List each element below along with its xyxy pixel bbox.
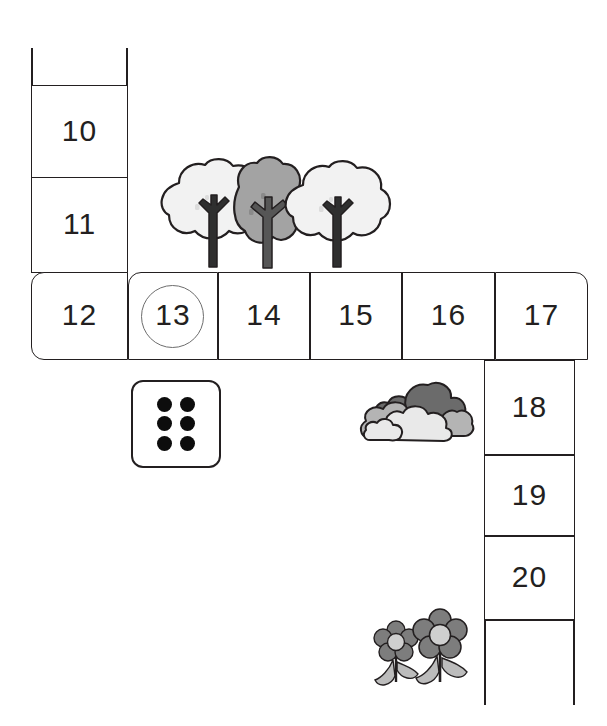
track-cell-label: 11 xyxy=(63,209,96,239)
track-cell-label: 17 xyxy=(524,300,559,330)
track-cell-label: 20 xyxy=(512,562,547,592)
track-cell-16[interactable]: 16 xyxy=(402,272,495,360)
tree-group xyxy=(135,155,380,275)
die-pip xyxy=(180,436,195,451)
bush-cluster xyxy=(358,378,480,448)
track-cell-10[interactable]: 10 xyxy=(31,85,128,178)
track-cell-label: 19 xyxy=(512,480,547,510)
track-edge-top-left xyxy=(31,48,33,86)
track-edge-bottom-divider xyxy=(484,619,575,621)
track-cell-15[interactable]: 15 xyxy=(310,272,402,360)
die-pip xyxy=(157,416,172,431)
flower-small xyxy=(374,621,418,685)
track-cell-label: 10 xyxy=(62,116,97,146)
track-cell-18[interactable]: 18 xyxy=(484,360,575,455)
track-cell-label: 15 xyxy=(338,300,373,330)
die-pip xyxy=(157,436,172,451)
number-track-board: 10 11 12 13 14 15 16 17 18 19 20 xyxy=(0,0,607,726)
six-sided-die[interactable] xyxy=(131,380,221,468)
track-cell-20[interactable]: 20 xyxy=(484,536,575,620)
track-cell-12[interactable]: 12 xyxy=(31,272,128,360)
track-edge-bottom-left xyxy=(484,620,486,705)
track-cell-label: 14 xyxy=(246,300,281,330)
track-cell-17[interactable]: 17 xyxy=(495,272,588,360)
track-cell-11[interactable]: 11 xyxy=(31,177,128,273)
current-position-marker xyxy=(141,285,204,348)
track-edge-top-right xyxy=(126,48,128,86)
track-edge-bottom-right xyxy=(573,620,575,705)
track-cell-14[interactable]: 14 xyxy=(218,272,310,360)
track-cell-19[interactable]: 19 xyxy=(484,455,575,536)
track-cell-label: 12 xyxy=(62,300,97,330)
tree-light-3 xyxy=(286,161,390,267)
flower-large xyxy=(413,609,467,684)
flower-group xyxy=(371,612,475,706)
die-pip xyxy=(180,416,195,431)
die-pip xyxy=(157,397,172,412)
track-cell-label: 18 xyxy=(512,392,547,422)
track-cell-label: 16 xyxy=(431,300,466,330)
die-pip xyxy=(180,397,195,412)
